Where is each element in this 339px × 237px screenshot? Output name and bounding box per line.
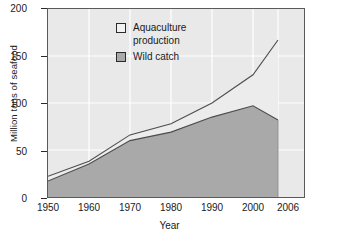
legend-item-aquaculture: Aquaculture production xyxy=(116,22,186,47)
seafood-production-chart: Million tons of seafood 200 150 100 50 0 xyxy=(0,0,339,237)
y-tick-label-150: 150 xyxy=(1,52,27,62)
plot-area: Aquaculture production Wild catch xyxy=(47,8,305,198)
legend-swatch-aquaculture-icon xyxy=(116,23,126,33)
x-tick-label-1980: 1980 xyxy=(151,203,191,213)
legend: Aquaculture production Wild catch xyxy=(116,22,186,68)
y-tick-mark-0 xyxy=(41,198,47,199)
y-tick-label-50: 50 xyxy=(1,147,27,157)
x-tick-label-2000: 2000 xyxy=(233,203,273,213)
x-tick-label-2006: 2006 xyxy=(268,203,308,213)
y-tick-label-100: 100 xyxy=(1,99,27,109)
x-tick-label-1970: 1970 xyxy=(110,203,150,213)
legend-label-aquaculture: Aquaculture production xyxy=(133,22,186,47)
x-axis-title: Year xyxy=(0,220,339,231)
y-tick-label-200: 200 xyxy=(1,4,27,14)
legend-item-wild-catch: Wild catch xyxy=(116,51,186,64)
x-tick-label-1950: 1950 xyxy=(28,203,68,213)
x-tick-label-1990: 1990 xyxy=(192,203,232,213)
legend-swatch-wild-catch-icon xyxy=(116,52,126,62)
legend-label-wild-catch: Wild catch xyxy=(133,51,179,64)
x-tick-label-1960: 1960 xyxy=(69,203,109,213)
y-tick-label-0: 0 xyxy=(1,194,27,204)
wild-catch-area xyxy=(48,106,278,197)
